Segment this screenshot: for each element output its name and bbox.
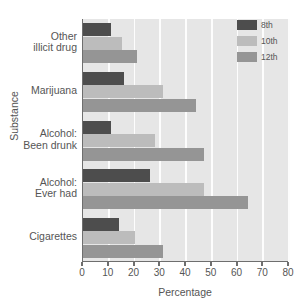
legend: 8th10th12th xyxy=(235,16,284,69)
bar-8th-1 xyxy=(83,169,150,182)
x-tick-label-70: 70 xyxy=(249,267,275,278)
y-tick-label-line: Marijuana xyxy=(0,85,77,97)
bar-10th-4 xyxy=(83,37,122,50)
legend-swatch-icon xyxy=(237,52,257,62)
x-tick-label-60: 60 xyxy=(224,267,250,278)
x-tick-70 xyxy=(261,262,263,266)
y-tick-label-2: Alcohol:Been drunk xyxy=(0,128,77,151)
legend-label: 10th xyxy=(261,36,278,46)
bar-12th-0 xyxy=(83,245,163,258)
bar-8th-3 xyxy=(83,72,124,85)
gridline xyxy=(159,19,161,261)
bar-chart: Substance Percentage CigarettesAlcohol:E… xyxy=(0,0,305,306)
legend-swatch-icon xyxy=(237,20,257,30)
legend-label: 12th xyxy=(261,52,278,62)
x-tick-0 xyxy=(81,262,83,266)
x-tick-label-30: 30 xyxy=(146,267,172,278)
gridline xyxy=(288,19,290,261)
bar-8th-2 xyxy=(83,121,111,134)
y-tick-label-4: Otherillicit drug xyxy=(0,31,77,54)
y-tick-label-line: Cigarettes xyxy=(0,231,77,243)
bar-10th-3 xyxy=(83,85,163,98)
legend-item-8th[interactable]: 8th xyxy=(237,18,283,31)
x-tick-80 xyxy=(287,262,289,266)
legend-item-12th[interactable]: 12th xyxy=(237,50,283,63)
x-tick-40 xyxy=(184,262,186,266)
y-tick-label-line: Ever had xyxy=(0,188,77,200)
gridline xyxy=(185,19,187,261)
x-tick-label-50: 50 xyxy=(198,267,224,278)
bar-12th-2 xyxy=(83,148,204,161)
x-tick-60 xyxy=(236,262,238,266)
x-tick-10 xyxy=(107,262,109,266)
y-tick-label-line: Alcohol: xyxy=(0,128,77,140)
y-tick-label-line: Been drunk xyxy=(0,140,77,152)
bar-10th-1 xyxy=(83,183,204,196)
bar-10th-0 xyxy=(83,231,135,244)
x-tick-20 xyxy=(133,262,135,266)
bar-8th-0 xyxy=(83,218,119,231)
y-tick-label-1: Alcohol:Ever had xyxy=(0,177,77,200)
bar-12th-3 xyxy=(83,99,196,112)
x-tick-label-20: 20 xyxy=(121,267,147,278)
x-tick-50 xyxy=(210,262,212,266)
x-tick-30 xyxy=(158,262,160,266)
y-tick-label-3: Marijuana xyxy=(0,85,77,97)
x-axis-title: Percentage xyxy=(82,286,288,298)
gridline xyxy=(211,19,213,261)
x-tick-label-10: 10 xyxy=(95,267,121,278)
bar-12th-4 xyxy=(83,50,137,63)
legend-swatch-icon xyxy=(237,36,257,46)
legend-item-10th[interactable]: 10th xyxy=(237,34,283,47)
y-tick-label-line: illicit drug xyxy=(0,42,77,54)
legend-label: 8th xyxy=(261,20,273,30)
bar-12th-1 xyxy=(83,196,248,209)
bar-8th-4 xyxy=(83,23,111,36)
x-tick-label-80: 80 xyxy=(275,267,301,278)
bar-10th-2 xyxy=(83,134,155,147)
x-tick-label-0: 0 xyxy=(69,267,95,278)
x-tick-label-40: 40 xyxy=(172,267,198,278)
y-tick-label-0: Cigarettes xyxy=(0,231,77,243)
